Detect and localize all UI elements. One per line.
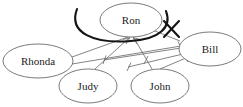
diagram-canvas: Ron Rhonda Judy John Bill (0, 0, 243, 107)
edge-rhonda-to-bill (72, 42, 182, 65)
node-rhonda[interactable]: Rhonda (3, 44, 73, 78)
node-label-rhonda: Rhonda (21, 55, 55, 67)
node-label-judy: Judy (78, 80, 99, 92)
node-john[interactable]: John (131, 69, 189, 103)
edge-bill-to-judy (103, 48, 181, 64)
node-label-ron: Ron (122, 14, 141, 26)
node-bill[interactable]: Bill (179, 32, 241, 66)
edge-line (72, 46, 181, 64)
node-label-bill: Bill (202, 43, 219, 55)
node-layer: Ron Rhonda Judy John Bill (3, 3, 241, 103)
edge-line (160, 58, 186, 69)
node-judy[interactable]: Judy (59, 69, 117, 103)
node-label-john: John (150, 80, 171, 92)
x-mark (164, 21, 179, 37)
network-diagram: Ron Rhonda Judy John Bill (0, 0, 243, 107)
edge-line (128, 54, 183, 67)
node-ron[interactable]: Ron (100, 3, 162, 37)
